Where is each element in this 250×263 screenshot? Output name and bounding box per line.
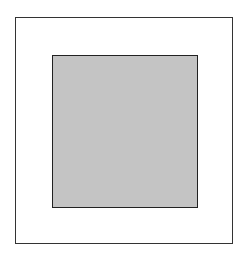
inner-square <box>52 55 198 208</box>
